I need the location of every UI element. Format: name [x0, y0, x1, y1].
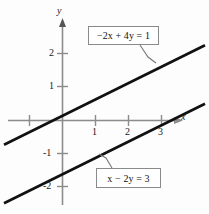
y-axis-label: y	[57, 6, 61, 16]
equation-lower-text: x − 2y = 3	[107, 173, 149, 184]
equation-upper-text: −2x + 4y = 1	[97, 30, 150, 41]
leader-line-upper	[140, 45, 156, 63]
line-minus2x-plus-4y-equals-1	[4, 45, 205, 145]
y-tick-label-2: 2	[49, 48, 54, 58]
graph-figure: x y 1 2 3 2 1 -1 -2 −2x + 4y = 1 x − 2y …	[0, 0, 209, 214]
y-axis-arrowhead	[59, 18, 66, 27]
x-tick-label-1: 1	[92, 127, 97, 137]
y-tick-label-neg2: -2	[43, 181, 51, 191]
y-tick-label-1: 1	[49, 81, 54, 91]
x-axis-label: x	[181, 112, 185, 122]
line-x-minus-2y-equals-3	[4, 104, 205, 204]
equation-callout-lower: x − 2y = 3	[96, 168, 161, 188]
x-tick-label-3: 3	[158, 127, 163, 137]
y-tick-label-neg1: -1	[43, 148, 51, 158]
x-tick-label-2: 2	[125, 127, 130, 137]
equation-callout-upper: −2x + 4y = 1	[88, 26, 159, 45]
